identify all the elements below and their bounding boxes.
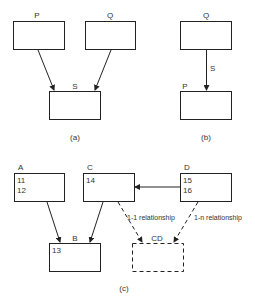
box-cd-label: CD: [151, 234, 163, 243]
caption-c: (c): [119, 284, 129, 293]
diagram-canvas: P Q S (a) Q P S (b) A 11 12 C 14 D 15 16…: [0, 0, 255, 300]
box-c-line-1: 14: [86, 176, 95, 185]
box-q-label: Q: [107, 11, 113, 20]
diagram-c: A 11 12 C 14 D 15 16 B 13 CD 1-1 relatio…: [15, 163, 242, 293]
edge-label-1-1: 1-1 relationship: [127, 214, 175, 222]
box-a-label: A: [18, 163, 24, 172]
box-d-line-1: 15: [183, 176, 192, 185]
box-s: [50, 92, 101, 120]
box-p-label: P: [34, 11, 39, 20]
edge-label-1-n: 1-n relationship: [194, 214, 242, 222]
arrow-d-cd: [174, 202, 198, 242]
box-a-line-1: 11: [17, 176, 26, 185]
arrow-p-s: [38, 50, 54, 90]
arrow-c-cd: [118, 202, 142, 242]
box-p-label: P: [182, 82, 187, 91]
box-b-line-1: 13: [52, 246, 61, 255]
box-c-label: C: [87, 163, 93, 172]
arrow-c-b: [90, 202, 103, 242]
box-d-label: D: [184, 163, 190, 172]
box-d-line-2: 16: [183, 186, 192, 195]
box-s-label: S: [72, 82, 77, 91]
box-a-line-2: 12: [17, 186, 26, 195]
box-q: [86, 22, 136, 50]
edge-label-s: S: [210, 64, 215, 73]
caption-a: (a): [70, 133, 80, 142]
box-p: [14, 22, 65, 50]
diagram-a: P Q S (a): [14, 11, 136, 142]
box-p: [181, 92, 232, 120]
diagram-b: Q P S (b): [181, 11, 232, 142]
caption-b: (b): [201, 133, 211, 142]
box-cd: [133, 244, 184, 272]
box-q: [181, 22, 232, 50]
arrow-a-b: [47, 202, 60, 242]
arrow-q-s: [95, 50, 111, 90]
box-q-label: Q: [203, 11, 209, 20]
box-b-label: B: [72, 234, 77, 243]
